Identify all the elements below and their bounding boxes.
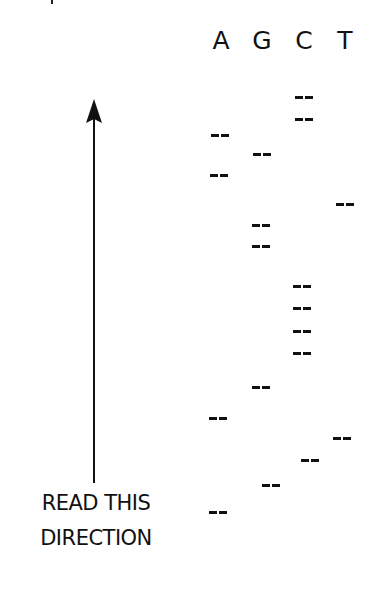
band-segment xyxy=(209,417,217,420)
band-segment xyxy=(219,417,227,420)
band-segment xyxy=(252,224,260,227)
lane-header-a: A xyxy=(206,26,236,56)
band-segment xyxy=(262,224,270,227)
band-segment xyxy=(303,330,311,333)
band-segment xyxy=(209,511,217,514)
band-a xyxy=(209,511,227,514)
lane-header-g: G xyxy=(247,26,277,56)
band-segment xyxy=(293,352,301,355)
band-g xyxy=(253,153,271,156)
lane-header-t: T xyxy=(330,26,360,56)
band-segment xyxy=(263,153,271,156)
band-segment xyxy=(305,118,313,121)
caption-line-1: READ THIS xyxy=(20,486,172,521)
band-g xyxy=(262,484,280,487)
cutoff-title-fragment xyxy=(51,0,53,4)
band-a xyxy=(211,134,229,137)
band-c xyxy=(293,285,311,288)
band-segment xyxy=(221,134,229,137)
band-segment xyxy=(220,174,228,177)
band-segment xyxy=(303,285,311,288)
band-c xyxy=(293,330,311,333)
band-segment xyxy=(252,386,260,389)
band-t xyxy=(336,203,354,206)
read-direction-caption: READ THIS DIRECTION xyxy=(20,486,172,556)
band-segment xyxy=(219,511,227,514)
band-segment xyxy=(295,118,303,121)
band-segment xyxy=(333,437,341,440)
band-segment xyxy=(293,330,301,333)
band-segment xyxy=(272,484,280,487)
band-a xyxy=(210,174,228,177)
band-segment xyxy=(211,134,219,137)
band-g xyxy=(252,386,270,389)
caption-line-2: DIRECTION xyxy=(20,521,172,556)
band-t xyxy=(333,437,351,440)
band-c xyxy=(293,307,311,310)
band-segment xyxy=(253,153,261,156)
band-segment xyxy=(303,307,311,310)
band-segment xyxy=(301,459,309,462)
band-c xyxy=(301,459,319,462)
band-segment xyxy=(210,174,218,177)
band-segment xyxy=(293,307,301,310)
band-segment xyxy=(346,203,354,206)
band-segment xyxy=(305,96,313,99)
band-g xyxy=(252,245,270,248)
band-g xyxy=(252,224,270,227)
band-segment xyxy=(262,245,270,248)
lane-header-c: C xyxy=(289,26,319,56)
band-segment xyxy=(295,96,303,99)
band-segment xyxy=(293,285,301,288)
read-direction-arrow-shaft xyxy=(93,118,95,483)
band-c xyxy=(293,352,311,355)
band-segment xyxy=(311,459,319,462)
band-segment xyxy=(262,484,270,487)
band-c xyxy=(295,96,313,99)
band-a xyxy=(209,417,227,420)
band-segment xyxy=(262,386,270,389)
band-segment xyxy=(343,437,351,440)
band-segment xyxy=(336,203,344,206)
band-segment xyxy=(303,352,311,355)
band-segment xyxy=(252,245,260,248)
band-c xyxy=(295,118,313,121)
